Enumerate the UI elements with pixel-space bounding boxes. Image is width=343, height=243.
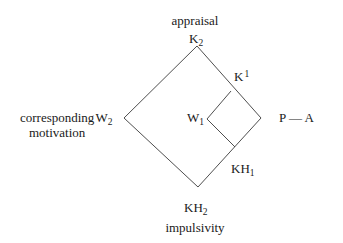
bottom-node-subscript: 2 (203, 207, 208, 217)
bottom-node-label: KH2 (184, 200, 208, 217)
diagram-canvas: appraisal K2 K1 W1 correspondingW2 motiv… (0, 0, 343, 243)
left-caption-line2: motivation (29, 125, 86, 140)
upper-right-node-label: K1 (234, 69, 249, 84)
top-node-subscript: 2 (198, 38, 203, 48)
left-node-subscript: 2 (108, 117, 113, 127)
lower-right-node-subscript: 1 (250, 168, 255, 178)
left-node-base: W (95, 110, 108, 125)
right-caption: P — A (279, 110, 315, 125)
bottom-caption: impulsivity (165, 220, 225, 235)
left-caption-line1: corresponding (20, 110, 95, 125)
inner-left-node-subscript: 1 (199, 117, 204, 127)
inner-left-node-label: W1 (187, 110, 204, 127)
top-caption: appraisal (172, 13, 219, 28)
bottom-node-base: KH (184, 200, 203, 215)
lower-right-node-label: KH1 (231, 161, 255, 178)
upper-right-node-base: K (234, 69, 244, 84)
top-node-label: K2 (189, 31, 203, 48)
upper-right-node-superscript: 1 (244, 69, 249, 79)
inner-left-node-base: W (187, 110, 200, 125)
lower-right-node-base: KH (231, 161, 250, 176)
inner-diamond (207, 91, 235, 147)
